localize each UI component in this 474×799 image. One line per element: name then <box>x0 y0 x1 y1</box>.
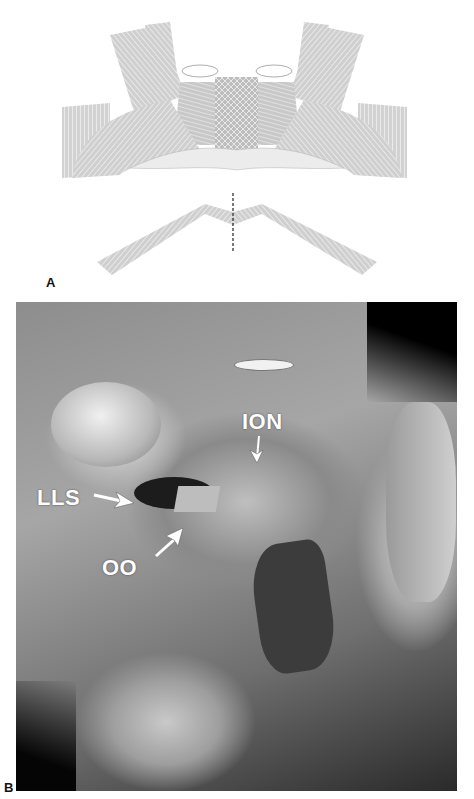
muscle-diagram <box>0 0 474 300</box>
annotation-arrows <box>16 302 457 791</box>
panel-a-illustration: A <box>0 0 474 300</box>
ion-arrow-icon <box>250 436 263 463</box>
oo-arrow-icon <box>156 528 183 556</box>
lls-arrow-icon <box>94 492 134 508</box>
panel-b-label: B <box>4 780 13 795</box>
panel-b-photo: ION LLS OO <box>16 302 457 791</box>
panel-a-label: A <box>46 275 55 290</box>
